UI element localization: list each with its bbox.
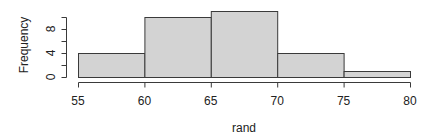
histogram-bar bbox=[79, 54, 145, 78]
histogram-bar bbox=[344, 72, 410, 78]
y-tick-label: 0 bbox=[44, 73, 58, 80]
x-tick-label: 55 bbox=[71, 94, 85, 108]
x-axis: 556065707580 bbox=[71, 83, 417, 109]
y-axis-title: Frequency bbox=[17, 17, 31, 74]
histogram-bar bbox=[211, 12, 277, 78]
histogram-chart: 556065707580 048 rand Frequency bbox=[0, 0, 431, 138]
x-tick-label: 80 bbox=[403, 94, 417, 108]
x-tick-label: 75 bbox=[337, 94, 351, 108]
x-tick-label: 70 bbox=[271, 94, 285, 108]
y-tick-label: 8 bbox=[44, 25, 58, 32]
histogram-bar bbox=[145, 18, 211, 78]
histogram-bar bbox=[278, 54, 344, 78]
histogram-bars bbox=[79, 12, 411, 78]
x-tick-label: 60 bbox=[138, 94, 152, 108]
y-axis: 048 bbox=[44, 18, 67, 81]
x-tick-label: 65 bbox=[204, 94, 218, 108]
x-axis-title: rand bbox=[232, 121, 256, 135]
y-tick-label: 4 bbox=[44, 49, 58, 56]
